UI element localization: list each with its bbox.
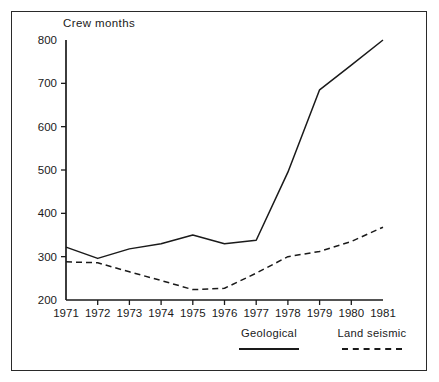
y-tick-label: 200 [38, 294, 57, 306]
x-tick-label: 1978 [275, 307, 301, 319]
plot-area: 200300400500600700800 197119721973197419… [0, 0, 439, 382]
y-tick-label: 300 [38, 251, 57, 263]
x-tick-label: 1980 [339, 307, 365, 319]
y-tick-labels: 200300400500600700800 [38, 34, 57, 306]
x-axis [66, 300, 383, 305]
y-tick-label: 700 [38, 77, 57, 89]
chart-legend: Geological Land seismic [228, 327, 413, 365]
series-line-geological [66, 40, 383, 258]
y-tick-label: 800 [38, 34, 57, 46]
x-tick-label: 1972 [85, 307, 111, 319]
x-tick-labels: 1971197219731974197519761977197819791980… [53, 307, 396, 319]
x-tick-label: 1971 [53, 307, 79, 319]
y-axis [61, 40, 66, 300]
chart-figure: Crew months 200300400500600700800 197119… [0, 0, 439, 382]
x-tick-label: 1977 [243, 307, 269, 319]
legend-item-land-seismic: Land seismic [331, 327, 413, 365]
x-tick-label: 1979 [307, 307, 333, 319]
legend-label-land-seismic: Land seismic [338, 327, 407, 339]
y-tick-label: 400 [38, 207, 57, 219]
x-tick-label: 1974 [148, 307, 174, 319]
legend-label-geological: Geological [241, 327, 297, 339]
x-tick-label: 1975 [180, 307, 206, 319]
x-tick-label: 1973 [117, 307, 143, 319]
x-tick-label: 1981 [370, 307, 396, 319]
legend-item-geological: Geological [228, 327, 310, 365]
y-tick-label: 500 [38, 164, 57, 176]
y-tick-label: 600 [38, 121, 57, 133]
legend-swatch-dashed-icon [342, 348, 402, 350]
series-line-land-seismic [66, 227, 383, 289]
x-tick-label: 1976 [212, 307, 238, 319]
legend-swatch-solid-icon [239, 348, 299, 350]
